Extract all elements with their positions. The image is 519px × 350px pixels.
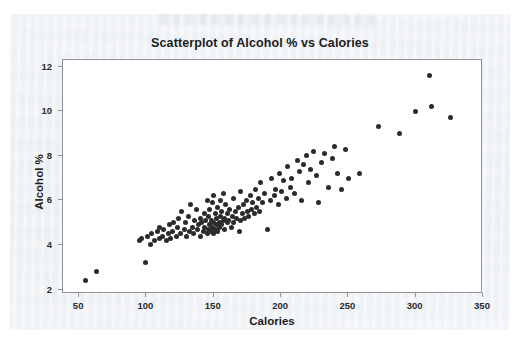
scatter-point — [304, 153, 309, 158]
scatter-point — [241, 202, 246, 207]
scatter-point — [335, 171, 340, 176]
x-tick-mark — [78, 293, 79, 297]
scatter-point — [155, 229, 160, 234]
scatter-point — [297, 169, 302, 174]
scatter-point — [149, 231, 154, 236]
scatter-point — [207, 207, 212, 212]
plot-area — [62, 59, 482, 293]
scatter-point — [233, 209, 238, 214]
scatter-point — [225, 211, 230, 216]
scatter-point — [346, 176, 351, 181]
x-tick-mark — [415, 293, 416, 297]
x-tick-mark — [145, 293, 146, 297]
scatter-point — [429, 104, 434, 109]
x-tick-label: 250 — [327, 300, 367, 311]
y-tick-label: 4 — [26, 238, 52, 249]
x-tick-label: 300 — [395, 300, 435, 311]
scatter-point — [258, 180, 263, 185]
scatter-point — [143, 260, 148, 265]
y-tick-mark — [58, 66, 62, 67]
scatter-point — [319, 160, 324, 165]
scatter-point — [265, 227, 270, 232]
scatter-point — [288, 185, 293, 190]
y-tick-label: 2 — [26, 283, 52, 294]
scatter-point — [168, 236, 173, 241]
x-tick-label: 50 — [58, 300, 98, 311]
y-axis-title: Alcohol % — [33, 137, 45, 227]
scatter-point — [246, 214, 251, 219]
scatter-point — [311, 149, 316, 154]
scatter-point — [219, 209, 224, 214]
scatter-point — [186, 214, 191, 219]
scatter-point — [198, 234, 203, 239]
scatter-point — [190, 225, 195, 230]
x-tick-mark — [213, 293, 214, 297]
scatter-point — [260, 200, 265, 205]
scatter-point — [277, 171, 282, 176]
y-tick-mark — [58, 199, 62, 200]
scatter-point — [292, 191, 297, 196]
scatter-point — [188, 202, 193, 207]
scatter-point — [215, 229, 220, 234]
scatter-point — [221, 191, 226, 196]
scatter-point — [227, 207, 232, 212]
y-tick-mark — [58, 289, 62, 290]
scatter-point — [205, 198, 210, 203]
scatter-point — [237, 229, 242, 234]
x-tick-mark — [482, 293, 483, 297]
scatter-point — [152, 238, 157, 243]
scatter-point — [248, 193, 253, 198]
scatter-point — [184, 234, 189, 239]
scatter-point — [289, 176, 294, 181]
scatter-point — [268, 198, 273, 203]
y-tick-label: 12 — [26, 60, 52, 71]
figure-region: Scatterplot of Alcohol % vs Calories 246… — [10, 14, 510, 330]
scatter-points-layer — [63, 60, 481, 292]
x-tick-label: 100 — [125, 300, 165, 311]
scatter-point — [427, 73, 432, 78]
scatter-point — [226, 218, 231, 223]
scatter-point — [339, 187, 344, 192]
scatter-point — [357, 171, 362, 176]
scatter-point — [183, 220, 188, 225]
scatter-point — [376, 124, 381, 129]
scatter-point — [244, 198, 249, 203]
scan-ghost-text-artifact — [160, 14, 380, 25]
scatter-point — [279, 189, 284, 194]
x-tick-label: 350 — [462, 300, 502, 311]
scatter-point — [332, 144, 337, 149]
scatter-point — [314, 173, 319, 178]
scatter-point — [222, 227, 227, 232]
scatter-point — [218, 198, 223, 203]
scatter-point — [308, 167, 313, 172]
scatter-point — [273, 187, 278, 192]
scatter-point — [139, 236, 144, 241]
scatter-point — [194, 207, 199, 212]
scatter-point — [326, 185, 331, 190]
scatter-point — [170, 229, 175, 234]
y-tick-mark — [58, 155, 62, 156]
x-tick-label: 200 — [260, 300, 300, 311]
x-tick-mark — [347, 293, 348, 297]
scatter-point — [195, 227, 200, 232]
y-tick-mark — [58, 244, 62, 245]
x-tick-label: 150 — [193, 300, 233, 311]
x-axis-title: Calories — [62, 315, 482, 327]
scatter-point — [148, 242, 153, 247]
scatter-point — [272, 193, 277, 198]
scatter-point — [178, 231, 183, 236]
scatter-point — [182, 227, 187, 232]
scatter-point — [83, 278, 88, 283]
scatter-point — [269, 176, 274, 181]
scatter-point — [191, 231, 196, 236]
x-tick-mark — [280, 293, 281, 297]
scatter-point — [295, 158, 300, 163]
scatter-point — [330, 156, 335, 161]
chart-title: Scatterplot of Alcohol % vs Calories — [10, 36, 510, 50]
scatter-point — [211, 193, 216, 198]
scatter-point — [448, 115, 453, 120]
scatter-point — [257, 209, 262, 214]
scatter-point — [301, 162, 306, 167]
y-tick-mark — [58, 110, 62, 111]
scatter-point — [231, 220, 236, 225]
